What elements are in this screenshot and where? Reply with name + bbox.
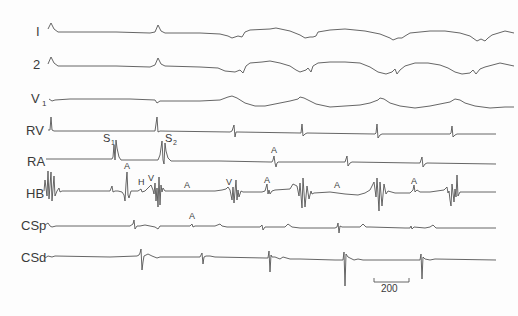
csp-atrial-marker: A [189,211,195,221]
trace-lead-2 [48,57,514,74]
channel-label-csp: CSp [21,218,46,233]
trace-csd [45,249,496,286]
svg-text:S: S [165,132,172,144]
hb-ventricular-marker: V [148,173,154,183]
channel-label-ra: RA [27,154,45,169]
trace-lead-v1 [49,96,514,108]
trace-lead-i [48,23,514,41]
stimulus-label-s1: S 1 [103,132,115,146]
scale-bar-label: 200 [381,283,398,294]
svg-text:1: 1 [111,139,115,146]
hb-his-marker: H [138,177,145,187]
hb-atrial-marker: A [411,176,417,186]
channel-label-v1: V 1 [31,91,47,108]
svg-text:S: S [103,132,110,144]
svg-text:V: V [31,91,40,106]
channel-label-csd: CSd [21,250,46,265]
ra-atrial-marker: A [271,145,277,155]
scale-bar-line [374,278,409,282]
electrogram-traces: I 2 V 1 RV RA HB CSp CSd S 1 S 2 A A H V… [0,0,518,316]
channel-label-2: 2 [33,57,40,72]
trace-rv [48,117,496,138]
stimulus-label-s2: S 2 [165,132,177,146]
trace-csp [45,220,496,233]
hb-atrial-marker: A [334,180,340,190]
hb-atrial-marker: A [184,180,190,190]
hb-atrial-marker: A [124,161,130,171]
svg-text:1: 1 [42,99,47,108]
svg-text:2: 2 [173,139,177,146]
channel-label-hb: HB [26,186,44,201]
hb-atrial-marker: A [264,175,270,185]
channel-label-i: I [36,24,40,39]
channel-label-rv: RV [26,123,44,138]
hb-ventricular-marker: V [226,177,232,187]
scale-bar: 200 [374,278,409,294]
electrogram-figure: I 2 V 1 RV RA HB CSp CSd S 1 S 2 A A H V… [0,0,518,316]
